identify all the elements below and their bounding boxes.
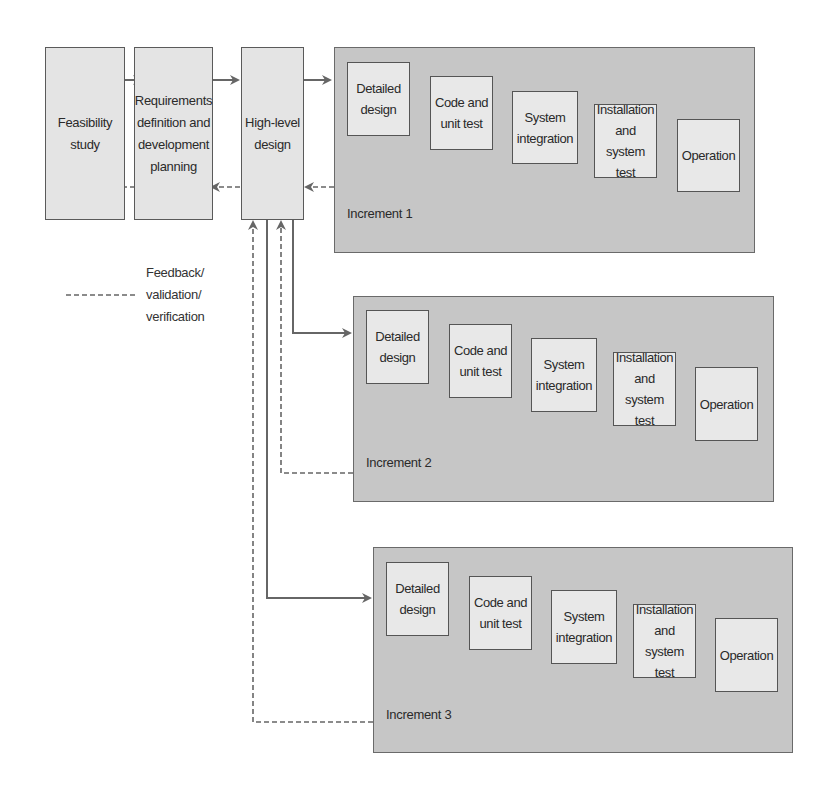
inc3-operation: Operation xyxy=(715,618,778,692)
inc3-code-unit-test: Code and unit test xyxy=(469,576,532,650)
stage-label: Requirements definition and development … xyxy=(135,90,212,178)
increment-2-label: Increment 2 xyxy=(366,455,431,470)
inc1-system-integration: System integration xyxy=(512,91,578,164)
incremental-lifecycle-diagram: Feasibility study Requirements definitio… xyxy=(0,0,820,785)
inc2-detailed-design: Detailed design xyxy=(366,310,429,384)
stage-label: Code and unit test xyxy=(435,92,488,134)
legend-feedback-label: Feedback/ validation/ verification xyxy=(146,262,205,328)
inc2-installation-system-test: Installation and system test xyxy=(613,352,676,426)
inc1-detailed-design: Detailed design xyxy=(347,62,410,136)
increment-1-label: Increment 1 xyxy=(347,206,412,221)
inc1-code-unit-test: Code and unit test xyxy=(430,76,493,150)
increment-3-label: Increment 3 xyxy=(386,707,451,722)
inc1-operation: Operation xyxy=(677,119,740,192)
stage-label: Code and unit test xyxy=(474,592,527,634)
stage-label: Operation xyxy=(720,645,774,666)
stage-label: Installation and system test xyxy=(616,347,673,431)
stage-label: Operation xyxy=(682,145,736,166)
stage-label: Detailed design xyxy=(375,326,420,368)
stage-label: Installation and system test xyxy=(597,99,654,183)
inc2-operation: Operation xyxy=(695,367,758,441)
inc2-code-unit-test: Code and unit test xyxy=(449,324,512,398)
stage-label: Code and unit test xyxy=(454,340,507,382)
stage-label: System integration xyxy=(556,606,612,648)
stage-label: Detailed design xyxy=(356,78,401,120)
stage-label: Feasibility study xyxy=(58,112,113,156)
inc3-detailed-design: Detailed design xyxy=(386,562,449,636)
stage-requirements-definition: Requirements definition and development … xyxy=(134,47,213,220)
stage-label: Detailed design xyxy=(395,578,440,620)
stage-feasibility-study: Feasibility study xyxy=(45,47,125,220)
inc3-installation-system-test: Installation and system test xyxy=(633,604,696,678)
stage-high-level-design: High-level design xyxy=(241,47,304,220)
stage-label: Operation xyxy=(700,394,754,415)
inc1-installation-system-test: Installation and system test xyxy=(594,104,657,178)
stage-label: High-level design xyxy=(245,112,300,156)
inc3-system-integration: System integration xyxy=(551,590,617,664)
stage-label: Installation and system test xyxy=(636,599,693,683)
stage-label: System integration xyxy=(536,354,592,396)
inc2-system-integration: System integration xyxy=(531,338,597,412)
stage-label: System integration xyxy=(517,107,573,149)
